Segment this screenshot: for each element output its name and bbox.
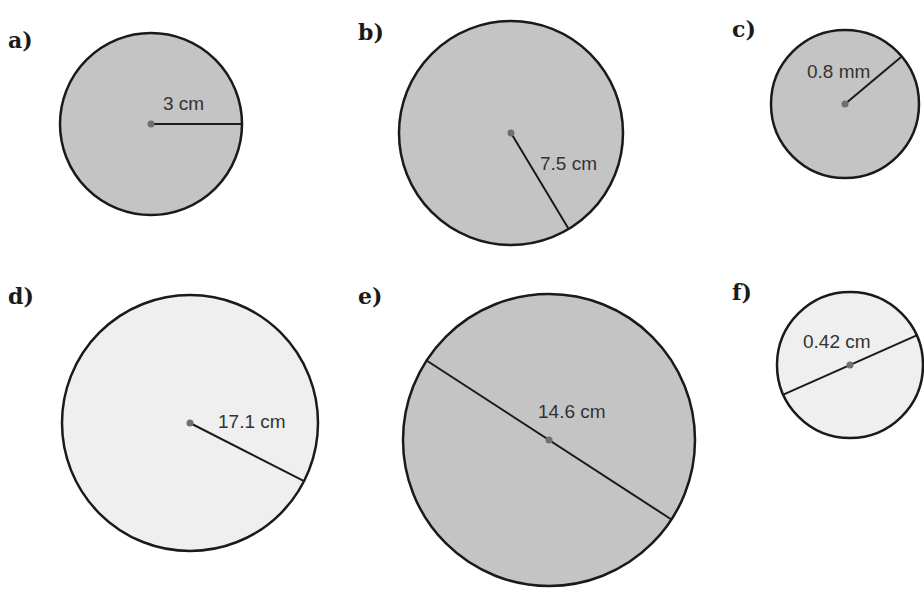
radius-measure-label: 7.5 cm xyxy=(540,153,597,174)
part-label: f) xyxy=(732,279,752,305)
part-label: b) xyxy=(358,19,384,45)
radius-measure-label: 0.8 mm xyxy=(807,61,870,82)
part-label: c) xyxy=(732,16,756,42)
part-label: d) xyxy=(8,283,34,309)
circle-figure-c: c)0.8 mm xyxy=(732,16,919,178)
circles-diagram: a)3 cmb)7.5 cmc)0.8 mmd)17.1 cme)14.6 cm… xyxy=(0,0,924,604)
circle-figure-b: b)7.5 cm xyxy=(358,19,623,245)
diameter-measure-label: 14.6 cm xyxy=(538,401,606,422)
circle-figure-e: e)14.6 cm xyxy=(358,283,695,586)
center-point xyxy=(508,130,515,137)
center-point xyxy=(847,362,854,369)
radius-measure-label: 17.1 cm xyxy=(218,411,286,432)
circle-figure-a: a)3 cm xyxy=(8,27,242,215)
circle-figure-d: d)17.1 cm xyxy=(8,283,318,551)
circle-figure-f: f)0.42 cm xyxy=(732,279,923,438)
center-point xyxy=(842,101,849,108)
radius-measure-label: 3 cm xyxy=(163,93,204,114)
center-point xyxy=(148,121,155,128)
center-point xyxy=(187,420,194,427)
diameter-measure-label: 0.42 cm xyxy=(803,331,871,352)
part-label: a) xyxy=(8,27,33,53)
center-point xyxy=(546,437,553,444)
part-label: e) xyxy=(358,283,382,309)
